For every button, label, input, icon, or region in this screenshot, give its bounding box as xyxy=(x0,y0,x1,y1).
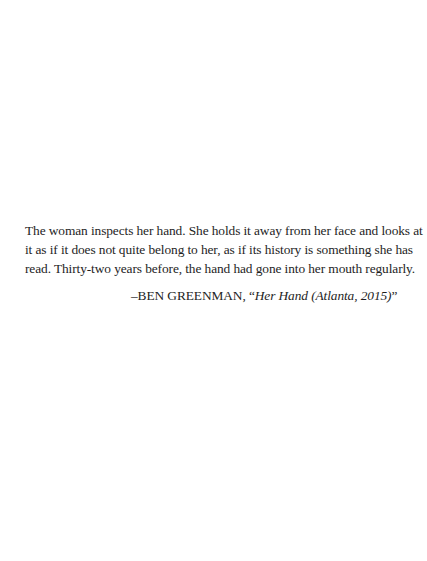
epigraph: The woman inspects her hand. She holds i… xyxy=(25,221,399,278)
quote-line-1: The woman inspects her hand. She holds i… xyxy=(25,221,399,240)
quote-line-2: it as if it does not quite belong to her… xyxy=(25,240,399,259)
attribution-close-quote: ” xyxy=(391,288,397,303)
attribution-author: –BEN GREENMAN, xyxy=(131,288,249,303)
quote-line-3: read. Thirty-two years before, the hand … xyxy=(25,259,399,278)
epigraph-attribution: –BEN GREENMAN, “Her Hand (Atlanta, 2015)… xyxy=(131,286,397,305)
attribution-title: Her Hand (Atlanta, 2015) xyxy=(255,288,392,303)
epigraph-quote: The woman inspects her hand. She holds i… xyxy=(25,221,399,278)
